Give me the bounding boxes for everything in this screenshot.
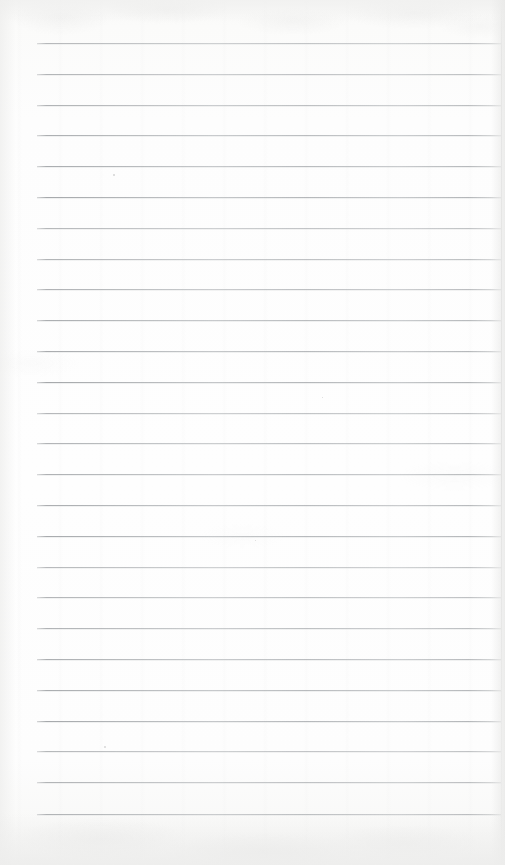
rule-line	[37, 721, 501, 722]
rule-line	[37, 320, 501, 321]
page-edge-left	[0, 0, 16, 865]
scan-speck	[104, 746, 106, 748]
rule-line	[37, 413, 501, 414]
rule-line	[37, 197, 501, 198]
rule-line	[37, 289, 501, 290]
ruled-lines-layer	[0, 0, 505, 865]
rule-line	[37, 659, 501, 660]
rule-line	[37, 105, 501, 106]
rule-line	[37, 228, 501, 229]
scan-speck	[113, 174, 115, 176]
rule-line	[37, 567, 501, 568]
rule-line	[37, 135, 501, 136]
rule-line	[37, 74, 501, 75]
rule-line	[37, 474, 501, 475]
rule-line	[37, 351, 501, 352]
page-edge-top	[0, 0, 505, 22]
page-edge-bottom	[0, 813, 505, 865]
rule-line	[37, 751, 501, 752]
page-edge-right	[491, 0, 505, 865]
rule-line	[37, 259, 501, 260]
rule-line	[37, 382, 501, 383]
rule-line	[37, 43, 501, 44]
scanned-page	[0, 0, 505, 865]
page-edge-hairline	[501, 0, 502, 865]
rule-line	[37, 690, 501, 691]
rule-line	[37, 782, 501, 783]
rule-line	[37, 597, 501, 598]
rule-line	[37, 505, 501, 506]
rule-line	[37, 166, 501, 167]
rule-line	[37, 443, 501, 444]
rule-line	[37, 628, 501, 629]
rule-line	[37, 536, 501, 537]
